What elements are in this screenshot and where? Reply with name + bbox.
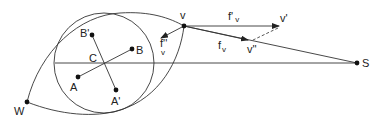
point-A bbox=[76, 75, 81, 80]
label-f-prime-v: f'v bbox=[228, 10, 239, 24]
label-S: S bbox=[362, 57, 369, 69]
diagram-canvas: v v' v'' S W A B A' B' C f'v fv f''v bbox=[0, 0, 380, 124]
point-B bbox=[130, 47, 135, 52]
label-f-double-prime-v: f''v bbox=[160, 37, 167, 57]
upper-boundary-curve bbox=[27, 13, 184, 102]
label-v-prime: v' bbox=[280, 12, 288, 24]
label-B-prime: B' bbox=[80, 27, 89, 39]
point-A-prime bbox=[114, 88, 119, 93]
vector-f-v bbox=[184, 26, 248, 40]
label-B: B bbox=[136, 44, 143, 56]
label-f-v: fv bbox=[218, 39, 226, 54]
point-W bbox=[25, 100, 30, 105]
label-C: C bbox=[89, 52, 97, 64]
label-v: v bbox=[180, 9, 186, 21]
point-B-prime bbox=[90, 33, 95, 38]
label-W: W bbox=[14, 105, 25, 117]
dashed-v-prime-to-v-double-prime bbox=[251, 28, 278, 41]
point-v bbox=[182, 24, 187, 29]
label-A: A bbox=[70, 81, 78, 93]
point-S bbox=[355, 61, 360, 66]
label-v-double-prime: v'' bbox=[247, 43, 257, 55]
label-A-prime: A' bbox=[111, 95, 120, 107]
